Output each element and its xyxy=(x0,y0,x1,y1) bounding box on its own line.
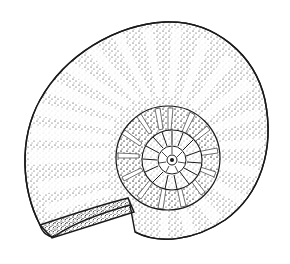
inner-whorl xyxy=(142,130,202,190)
ammonite-illustration xyxy=(0,0,290,264)
ammonite-drawing xyxy=(0,0,290,264)
